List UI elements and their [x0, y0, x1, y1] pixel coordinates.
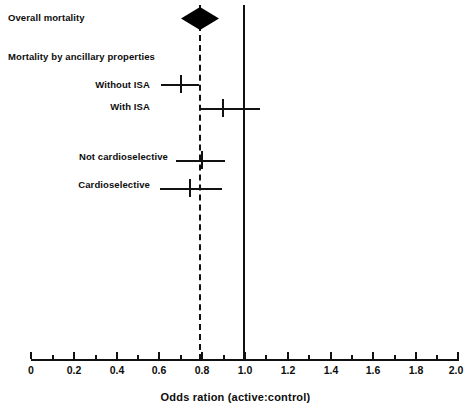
- x-axis-tick-0-6: [158, 352, 160, 359]
- x-axis-minor-tick-0-9: [223, 355, 225, 359]
- x-axis-minor-tick-1-1: [265, 355, 267, 359]
- x-axis-minor-tick-0-5: [137, 355, 139, 359]
- x-axis-minor-tick-0-7: [180, 355, 182, 359]
- x-axis-minor-tick-1-3: [308, 355, 310, 359]
- x-axis-label-0-4: 0.4: [110, 364, 125, 376]
- x-axis-tick-0: [30, 352, 32, 359]
- point-marker-with-isa: [222, 99, 224, 117]
- x-axis-tick-2-0: [457, 352, 459, 359]
- x-axis-tick-1-6: [372, 352, 374, 359]
- x-axis-label-0-2: 0.2: [67, 364, 82, 376]
- x-axis-minor-tick-1-7: [394, 355, 396, 359]
- plot-area: [0, 0, 471, 412]
- x-axis-line: [31, 359, 459, 361]
- x-axis-tick-1-0: [244, 352, 246, 359]
- forest-plot-figure: Overall mortality Mortality by ancillary…: [0, 0, 471, 412]
- ci-line-with-isa: [199, 108, 260, 110]
- x-axis-label-1-8: 1.8: [409, 364, 424, 376]
- point-marker-without-isa: [180, 75, 182, 93]
- pooled-estimate-dashed-line: [199, 5, 201, 360]
- point-marker-cardioselective: [189, 179, 191, 197]
- x-axis-title: Odds ration (active:control): [0, 391, 471, 403]
- x-axis-tick-0-4: [116, 352, 118, 359]
- x-axis-label-0: 0: [28, 364, 34, 376]
- x-axis-tick-1-2: [287, 352, 289, 359]
- x-axis-tick-1-4: [330, 352, 332, 359]
- x-axis-label-1-4: 1.4: [324, 364, 339, 376]
- overall-mortality-diamond-marker: [181, 7, 219, 30]
- ci-line-cardioselective: [160, 188, 222, 190]
- x-axis-tick-0-8: [201, 352, 203, 359]
- null-reference-line: [243, 5, 245, 360]
- x-axis-minor-tick-1-9: [436, 355, 438, 359]
- point-marker-not-cardioselective: [201, 151, 203, 169]
- x-axis-label-2-0: 2.0: [449, 364, 464, 376]
- x-axis-minor-tick-0-1: [52, 355, 54, 359]
- x-axis-label-0-6: 0.6: [152, 364, 167, 376]
- x-axis-label-1-0: 1.0: [238, 364, 253, 376]
- x-axis-minor-tick-1-5: [351, 355, 353, 359]
- x-axis-label-0-8: 0.8: [195, 364, 210, 376]
- x-axis-tick-1-8: [415, 352, 417, 359]
- x-axis-minor-tick-0-3: [95, 355, 97, 359]
- x-axis-label-1-2: 1.2: [281, 364, 296, 376]
- x-axis-label-1-6: 1.6: [366, 364, 381, 376]
- x-axis-tick-0-2: [73, 352, 75, 359]
